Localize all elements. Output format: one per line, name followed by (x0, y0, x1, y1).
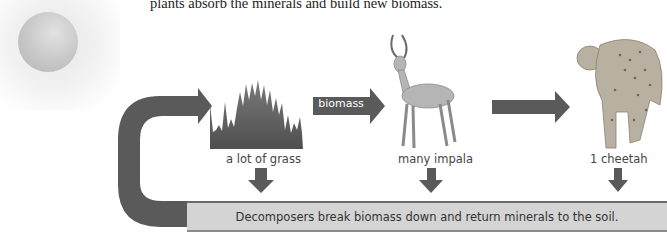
cheetah-icon (577, 40, 662, 148)
diagram-graphics (0, 0, 667, 232)
cheetah-label: 1 cheetah (590, 152, 648, 166)
impala-down-arrow (419, 168, 443, 193)
decomposers-text: Decomposers break biomass down and retur… (187, 210, 667, 224)
grass-icon (210, 80, 303, 149)
grass-label: a lot of grass (226, 152, 301, 166)
decomposers-bar: Decomposers break biomass down and retur… (187, 201, 667, 232)
impala-label: many impala (398, 152, 473, 166)
cheetah-down-arrow (608, 168, 628, 192)
grass-down-arrow (248, 168, 274, 193)
biomass-arrow-label: biomass (318, 97, 364, 110)
impala-to-cheetah-arrow (492, 91, 570, 123)
impala-icon (391, 35, 455, 148)
